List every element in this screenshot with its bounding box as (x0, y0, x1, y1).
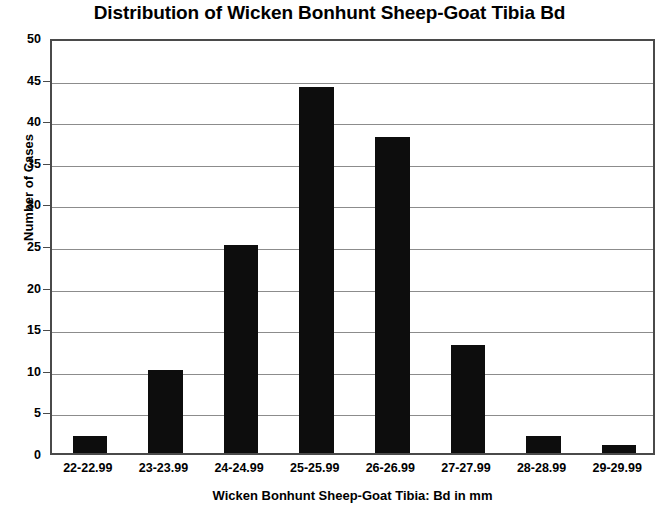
bar (224, 245, 258, 453)
y-axis-title: Number of Cases (21, 98, 36, 278)
bars-layer (52, 41, 653, 453)
x-tick-label: 23-23.99 (139, 461, 188, 475)
y-tick-mark (43, 122, 50, 123)
y-tick-label: 0 (0, 448, 41, 462)
x-tick-label: 22-22.99 (63, 461, 112, 475)
x-tick-label: 29-29.99 (593, 461, 642, 475)
plot-area (50, 39, 655, 455)
x-axis-title: Wicken Bonhunt Sheep-Goat Tibia: Bd in m… (50, 488, 655, 503)
y-tick-mark (43, 289, 50, 290)
bar (526, 436, 560, 453)
bar (451, 345, 485, 453)
y-tick-mark (43, 247, 50, 248)
y-tick-mark (43, 81, 50, 82)
y-tick-mark (43, 205, 50, 206)
bar (148, 370, 182, 453)
x-tick-label: 28-28.99 (517, 461, 566, 475)
y-tick-label: 45 (0, 74, 41, 88)
x-tick-label: 26-26.99 (366, 461, 415, 475)
x-tick-label: 25-25.99 (290, 461, 339, 475)
y-tick-label: 5 (0, 406, 41, 420)
x-tick-label: 24-24.99 (214, 461, 263, 475)
bar (299, 87, 333, 453)
x-tick-label: 27-27.99 (441, 461, 490, 475)
bar (375, 137, 409, 453)
chart-container: Distribution of Wicken Bonhunt Sheep-Goa… (0, 0, 659, 515)
y-tick-mark (43, 330, 50, 331)
y-tick-label: 50 (0, 32, 41, 46)
y-tick-mark (43, 164, 50, 165)
y-tick-label: 10 (0, 365, 41, 379)
y-tick-mark (43, 413, 50, 414)
y-tick-mark (43, 372, 50, 373)
chart-title: Distribution of Wicken Bonhunt Sheep-Goa… (0, 2, 659, 24)
y-tick-label: 20 (0, 282, 41, 296)
bar (73, 436, 107, 453)
y-tick-label: 15 (0, 323, 41, 337)
bar (602, 445, 636, 453)
